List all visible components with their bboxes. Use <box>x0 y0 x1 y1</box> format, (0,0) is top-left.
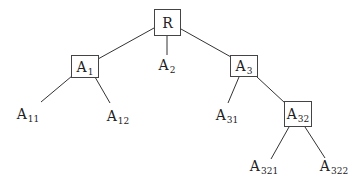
node-label: A11 <box>17 107 40 121</box>
node-label-base: A <box>107 109 117 123</box>
node-label: A31 <box>216 108 239 122</box>
node-label-base: R <box>162 16 173 30</box>
node-label: A1 <box>77 60 94 74</box>
node-label-base: A <box>77 60 87 74</box>
node-label-base: A <box>320 159 330 173</box>
node-a31: A31 <box>213 106 241 124</box>
node-label-subscript: 11 <box>28 115 39 124</box>
node-a321: A321 <box>248 156 280 176</box>
edge-r-a3 <box>181 29 231 57</box>
edge-a1-a12 <box>95 77 110 103</box>
node-a12: A12 <box>104 107 132 125</box>
node-label-base: A <box>287 107 297 121</box>
tree-edges <box>0 0 363 188</box>
edge-a3-a32 <box>257 77 285 103</box>
node-r: R <box>154 9 181 36</box>
node-label: A3 <box>236 59 253 73</box>
node-label-base: A <box>216 108 226 122</box>
node-label-subscript: 2 <box>170 66 176 75</box>
node-a2: A2 <box>156 56 178 74</box>
node-label-base: A <box>159 58 169 72</box>
node-label-base: A <box>236 59 246 73</box>
node-label: A2 <box>159 58 176 72</box>
node-label-subscript: 321 <box>261 167 278 176</box>
node-label: A322 <box>320 159 348 173</box>
edge-r-a1 <box>98 28 154 59</box>
node-label-subscript: 3 <box>247 67 253 76</box>
edge-a32-a321 <box>271 127 289 159</box>
node-a322: A322 <box>318 156 350 176</box>
edge-a32-a322 <box>305 127 325 158</box>
node-label: A32 <box>287 107 310 121</box>
edge-a1-a11 <box>41 76 72 102</box>
node-a3: A3 <box>230 55 258 77</box>
node-label: A12 <box>107 109 130 123</box>
node-label: R <box>162 16 173 30</box>
node-a11: A11 <box>14 105 42 123</box>
node-label-base: A <box>250 159 260 173</box>
edge-a3-a31 <box>228 77 239 103</box>
node-a32: A32 <box>284 101 312 127</box>
node-a1: A1 <box>71 55 99 78</box>
node-label: A321 <box>250 159 278 173</box>
node-label-base: A <box>17 107 27 121</box>
node-label-subscript: 32 <box>298 115 309 124</box>
node-label-subscript: 31 <box>227 116 238 125</box>
node-label-subscript: 1 <box>88 68 94 77</box>
node-label-subscript: 322 <box>331 167 348 176</box>
node-label-subscript: 12 <box>118 117 129 126</box>
